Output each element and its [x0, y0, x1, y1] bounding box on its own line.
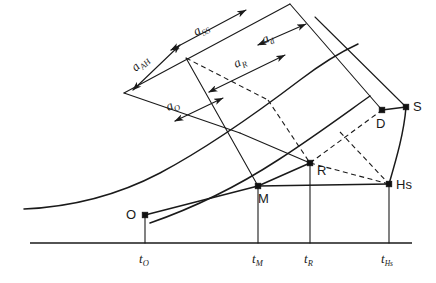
- svg-text:tM: tM: [252, 251, 264, 268]
- point-marker-o: [142, 212, 148, 218]
- tick-label-ths: tHs: [381, 251, 393, 268]
- diagram-canvas: aSS aAH ad aR aO O M R D S: [0, 0, 436, 283]
- label-a-o: aO: [164, 95, 182, 116]
- point-label-o: O: [126, 207, 136, 222]
- tick-label-to-sub: O: [143, 258, 149, 268]
- point-marker-d: [379, 107, 385, 113]
- tick-label-to: tO: [139, 251, 149, 268]
- svg-text:aO: aO: [164, 95, 182, 116]
- label-a-r: aR: [231, 52, 250, 73]
- label-a-o-sub: O: [172, 102, 181, 114]
- point-marker-hs: [386, 181, 392, 187]
- svg-text:aAH: aAH: [128, 50, 154, 76]
- dimension-arrow-a-o: [175, 98, 223, 121]
- point-label-d: D: [376, 116, 385, 131]
- horizontal-line-m-hs: [258, 184, 389, 186]
- fan-line-2: [240, 133, 310, 163]
- segment-s-hs: [389, 107, 406, 184]
- fan-rail-upper-left: [124, 4, 290, 93]
- dashed-line-to-hs: [340, 132, 389, 184]
- point-label-m: M: [258, 191, 269, 206]
- svg-text:tO: tO: [139, 251, 149, 268]
- fan-line-4: [315, 17, 406, 107]
- segment-d-s: [382, 107, 406, 110]
- point-marker-m: [255, 183, 261, 189]
- svg-text:aR: aR: [231, 52, 250, 73]
- point-label-r: R: [317, 163, 326, 178]
- vector-time-diagram: aSS aAH ad aR aO O M R D S: [0, 0, 436, 283]
- tick-label-tm: tM: [252, 251, 264, 268]
- label-a-d: ad: [259, 28, 277, 49]
- point-marker-r: [307, 160, 313, 166]
- fan-line-1: [186, 58, 258, 186]
- tick-label-tm-sub: M: [255, 258, 264, 268]
- fan-rail-lower-left: [124, 93, 240, 133]
- fan-line-3: [290, 4, 382, 110]
- tick-label-tr-sub: R: [307, 258, 314, 268]
- svg-text:tHs: tHs: [381, 251, 393, 268]
- dashed-line-r-d: [310, 110, 382, 163]
- svg-text:ad: ad: [259, 28, 277, 49]
- point-marker-s: [403, 104, 409, 110]
- point-label-s: S: [413, 99, 422, 114]
- tick-label-ths-sub: Hs: [384, 259, 393, 268]
- point-label-hs: Hs: [396, 177, 412, 192]
- tick-label-tr: tR: [304, 251, 314, 268]
- label-a-ah: aAH: [128, 50, 154, 76]
- svg-text:tR: tR: [304, 251, 314, 268]
- primary-sweep-curve: [24, 44, 358, 209]
- dimension-arrow-a-r: [209, 55, 285, 92]
